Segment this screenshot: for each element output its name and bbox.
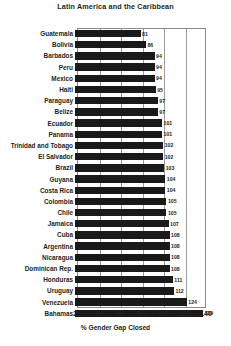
bar-track: 101 <box>75 129 231 140</box>
category-label: El Salvador <box>0 153 75 160</box>
category-label: Panama <box>0 131 75 138</box>
bar-rows: Guatemala81Bolivia86Barbados94Peru94Mexi… <box>0 28 231 308</box>
x-tick-80: 80 <box>138 310 146 317</box>
bar-row: Venezuela124 <box>0 297 231 308</box>
bar-value-label: 101 <box>162 131 172 137</box>
bar-value-label: 86 <box>146 42 153 48</box>
bar-track: 101 <box>75 118 231 129</box>
bar-value-label: 108 <box>170 232 180 238</box>
category-label: Barbados <box>0 52 75 59</box>
category-label: Trinidad and Tobago <box>0 142 75 149</box>
bar-track: 102 <box>75 151 231 162</box>
category-label: Honduras <box>0 276 75 283</box>
bar-row: Colombia105 <box>0 196 231 207</box>
bar[interactable] <box>75 108 158 115</box>
bar[interactable] <box>75 265 170 272</box>
bar[interactable] <box>75 198 166 205</box>
bar-track: 105 <box>75 196 231 207</box>
bar-row: Guyana104 <box>0 173 231 184</box>
chart-container: Latin America and the Caribbean Guatemal… <box>0 0 231 346</box>
bar-value-label: 94 <box>155 75 162 81</box>
bar-track: 107 <box>75 218 231 229</box>
bar[interactable] <box>75 242 170 249</box>
bar[interactable] <box>75 164 164 171</box>
bar-row: Haiti95 <box>0 84 231 95</box>
bar-row: Dominican Rep.108 <box>0 263 231 274</box>
bar[interactable] <box>75 298 187 305</box>
bar[interactable] <box>75 175 165 182</box>
category-label: Argentina <box>0 243 75 250</box>
x-axis-ticks: 20406080100120140 <box>77 310 206 322</box>
category-label: Nicaragua <box>0 254 75 261</box>
bar-row: Jamaica107 <box>0 218 231 229</box>
bar-track: 104 <box>75 173 231 184</box>
bar-row: Brazil103 <box>0 162 231 173</box>
bar-row: Costa Rica104 <box>0 185 231 196</box>
bar-value-label: 104 <box>165 176 175 182</box>
bar-row: Peru94 <box>0 62 231 73</box>
bar-value-label: 104 <box>165 187 175 193</box>
bar-value-label: 108 <box>170 254 180 260</box>
category-label: Dominican Rep. <box>0 265 75 272</box>
category-label: Belize <box>0 108 75 115</box>
bar-value-label: 105 <box>166 198 176 204</box>
bar-value-label: 97 <box>158 109 165 115</box>
bar-value-label: 108 <box>170 266 180 272</box>
bar[interactable] <box>75 52 155 59</box>
bar-track: 94 <box>75 62 231 73</box>
bar[interactable] <box>75 153 163 160</box>
bar[interactable] <box>75 231 170 238</box>
bar-row: El Salvador102 <box>0 151 231 162</box>
bar[interactable] <box>75 86 156 93</box>
bar[interactable] <box>75 97 158 104</box>
category-label: Brazil <box>0 164 75 171</box>
bar[interactable] <box>75 41 146 48</box>
chart-title: Latin America and the Caribbean <box>0 2 231 11</box>
bar[interactable] <box>75 75 155 82</box>
bar-track: 108 <box>75 252 231 263</box>
bar-row: Chile105 <box>0 207 231 218</box>
category-label: Guyana <box>0 176 75 183</box>
category-label: Jamaica <box>0 220 75 227</box>
category-label: Haiti <box>0 86 75 93</box>
bar-track: 95 <box>75 84 231 95</box>
bar[interactable] <box>75 220 169 227</box>
bar-row: Cuba108 <box>0 229 231 240</box>
category-label: Bolivia <box>0 41 75 48</box>
x-axis-label: % Gender Gap Closed <box>0 324 231 331</box>
bar[interactable] <box>75 131 162 138</box>
bar-row: Nicaragua108 <box>0 252 231 263</box>
bar[interactable] <box>75 63 155 70</box>
bar[interactable] <box>75 287 174 294</box>
bar-row: Uruguay112 <box>0 285 231 296</box>
bar-track: 97 <box>75 106 231 117</box>
bar-track: 97 <box>75 95 231 106</box>
bar-row: Panama101 <box>0 129 231 140</box>
bar-row: Barbados94 <box>0 50 231 61</box>
bar-track: 86 <box>75 39 231 50</box>
bar-value-label: 112 <box>174 288 184 294</box>
bar-value-label: 105 <box>166 210 176 216</box>
category-label: Colombia <box>0 198 75 205</box>
bar[interactable] <box>75 254 170 261</box>
bar-row: Bolivia86 <box>0 39 231 50</box>
bar[interactable] <box>75 119 162 126</box>
bar[interactable] <box>75 276 173 283</box>
bar-track: 105 <box>75 207 231 218</box>
bar-value-label: 124 <box>187 299 197 305</box>
bar-track: 111 <box>75 274 231 285</box>
bar[interactable] <box>75 187 165 194</box>
bar-value-label: 97 <box>158 98 165 104</box>
category-label: Paraguay <box>0 97 75 104</box>
bar[interactable] <box>75 142 163 149</box>
bar[interactable] <box>75 30 141 37</box>
bar-track: 81 <box>75 28 231 39</box>
bar-value-label: 102 <box>163 142 173 148</box>
bar[interactable] <box>75 209 166 216</box>
x-tick-40: 40 <box>95 310 103 317</box>
category-label: Costa Rica <box>0 187 75 194</box>
bar-track: 124 <box>75 297 231 308</box>
x-tick-120: 120 <box>179 310 191 317</box>
bar-value-label: 94 <box>155 53 162 59</box>
x-tick-100: 100 <box>157 310 169 317</box>
